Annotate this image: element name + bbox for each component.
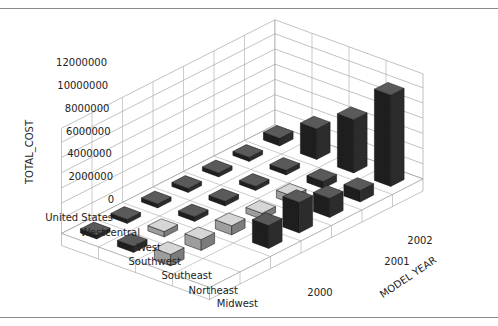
year-label: 2000 <box>307 287 332 298</box>
z-tick-label: 0 <box>108 194 114 205</box>
year-label: 2001 <box>384 256 409 267</box>
region-label: Northeast <box>189 285 238 296</box>
bar <box>283 190 313 233</box>
bar-chart-3d: 0200000040000006000000800000010000000120… <box>0 0 498 326</box>
z-tick-label: 6000000 <box>66 126 111 137</box>
region-label: Southeast <box>162 270 213 281</box>
z-tick-label: 12000000 <box>56 57 107 68</box>
z-tick-label: 10000000 <box>57 80 108 91</box>
year-label: 2002 <box>407 235 432 246</box>
year-labels: 200020012002MODEL YEAR <box>307 235 438 300</box>
region-label: United States <box>45 212 113 223</box>
z-tick-label: 4000000 <box>67 148 112 159</box>
z-axis-title: TOTAL_COST <box>24 119 36 185</box>
z-tick-label: 2000000 <box>68 171 113 182</box>
bar <box>374 82 404 186</box>
bar <box>300 116 330 159</box>
bar <box>313 186 343 218</box>
region-label: West <box>136 242 161 253</box>
region-label: Southwest <box>128 256 181 267</box>
bar <box>252 213 282 249</box>
region-label: Midwest <box>217 298 258 309</box>
z-tick-label: 8000000 <box>65 103 110 114</box>
bar <box>337 107 367 173</box>
region-label: Westcentral <box>80 227 140 238</box>
